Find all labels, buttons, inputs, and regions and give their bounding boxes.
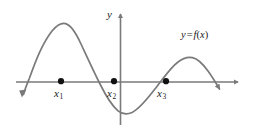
root-point-x2 [111, 78, 117, 84]
function-equation-label: y=f(x) [181, 30, 208, 41]
y-axis-label: y [107, 9, 112, 20]
root-label-x3-subscript: 3 [162, 92, 166, 101]
curve-left-arrowhead [19, 90, 26, 98]
function-label-lhs: y [181, 29, 186, 40]
root-label-x3: x3 [157, 88, 166, 99]
root-point-x3 [163, 78, 169, 84]
root-label-x2-subscript: 2 [112, 92, 116, 101]
graph-canvas [0, 0, 254, 136]
function-label-equals: = [186, 29, 194, 40]
root-label-x1: x1 [54, 88, 63, 99]
root-label-x2: x2 [107, 88, 116, 99]
root-point-x1 [58, 78, 64, 84]
root-label-x1-subscript: 1 [59, 92, 63, 101]
function-graph-figure: y x1 x2 x3 y=f(x) [0, 0, 254, 136]
function-label-close-paren: ) [205, 29, 209, 40]
